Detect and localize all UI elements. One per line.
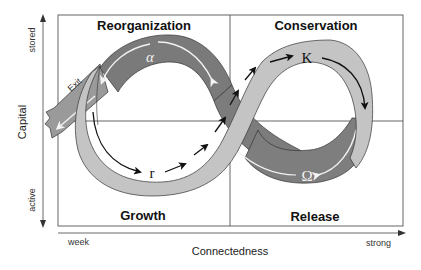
y-axis-up-arrow-icon [40,14,46,22]
quadrant-label-release: Release [290,209,339,224]
quadrant-label-conservation: Conservation [274,18,357,33]
r-symbol: r [150,165,155,181]
x-axis-right-label: strong [366,238,391,248]
quadrant-label-growth: Growth [120,208,166,223]
quadrant-label-reorganization: Reorganization [97,18,191,33]
x-axis-right-arrow-icon [398,230,406,236]
y-axis: stored Capital active [16,14,46,228]
y-axis-down-arrow-icon [40,220,46,228]
y-axis-title: Capital [16,105,28,139]
x-axis-title: Connectedness [192,245,269,257]
x-axis-left-label: week [67,237,90,247]
x-axis: week strong Connectedness [58,230,406,257]
y-axis-top-label: stored [27,27,37,52]
alpha-symbol: α [146,49,155,65]
adaptive-cycle-diagram: α K Ω r Exit Reorganization Conservation… [0,0,421,270]
omega-symbol: Ω [301,168,312,184]
y-axis-bottom-label: active [27,188,37,212]
k-symbol: K [302,50,313,66]
